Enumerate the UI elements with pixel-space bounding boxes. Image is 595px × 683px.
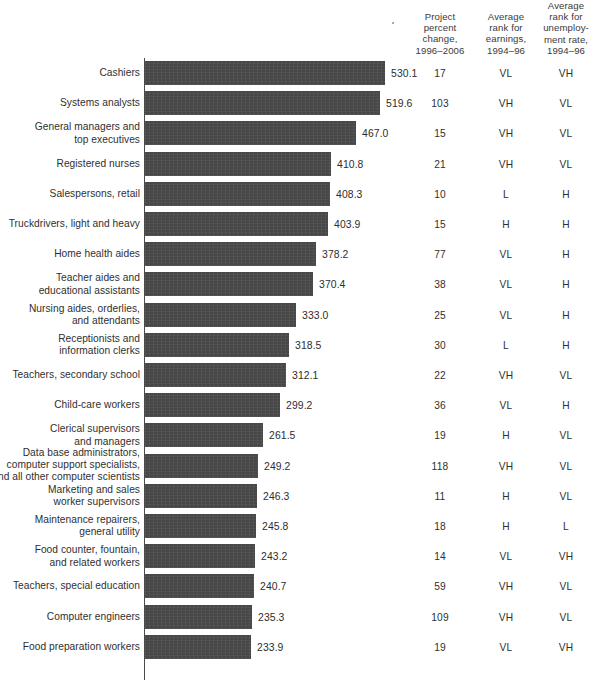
row-category-label: Food preparation workers	[0, 641, 140, 653]
cell-percent-change: 14	[408, 551, 472, 562]
cell-rank-earnings: L	[476, 188, 536, 199]
cell-rank-earnings: VL	[476, 400, 536, 411]
bar	[145, 303, 296, 327]
cell-percent-change: 11	[408, 490, 472, 501]
row-category-label: Nursing aides, orderlies, and attendants	[0, 302, 140, 327]
cell-percent-change: 15	[408, 128, 472, 139]
stray-speck-mark	[392, 22, 394, 24]
bar-value-label: 370.4	[319, 279, 346, 290]
bar-value-label: 261.5	[269, 430, 296, 441]
cell-rank-unemployment: VL	[538, 430, 594, 441]
row-category-label: Child-care workers	[0, 399, 140, 411]
bar-value-label: 240.7	[260, 581, 287, 592]
cell-rank-unemployment: VL	[538, 370, 594, 381]
cell-rank-earnings: VH	[476, 158, 536, 169]
cell-rank-unemployment: VL	[538, 581, 594, 592]
row-category-label: Cashiers	[0, 67, 140, 79]
cell-percent-change: 103	[408, 98, 472, 109]
chart-row: Registered nurses410.821VHVL	[0, 149, 595, 179]
cell-percent-change: 19	[408, 430, 472, 441]
chart-row: Receptionists and information clerks318.…	[0, 330, 595, 360]
bar-value-label: 467.0	[362, 128, 389, 139]
row-category-label: Truckdrivers, light and heavy	[0, 218, 140, 230]
bar	[145, 574, 254, 598]
row-category-label: General managers and top executives	[0, 121, 140, 146]
cell-rank-earnings: VL	[476, 309, 536, 320]
bar	[145, 61, 385, 85]
bar	[145, 242, 316, 266]
row-category-label: Receptionists and information clerks	[0, 332, 140, 357]
row-category-label: Maintenance repairers, general utility	[0, 514, 140, 539]
cell-percent-change: 15	[408, 219, 472, 230]
bar-value-label: 299.2	[286, 400, 313, 411]
cell-percent-change: 21	[408, 158, 472, 169]
cell-rank-earnings: VL	[476, 249, 536, 260]
cell-rank-unemployment: VL	[538, 611, 594, 622]
cell-rank-earnings: VL	[476, 68, 536, 79]
bar-value-label: 333.0	[302, 309, 329, 320]
row-category-label: Teachers, secondary school	[0, 369, 140, 381]
chart-row: Home health aides378.277VLH	[0, 239, 595, 269]
cell-rank-unemployment: H	[538, 219, 594, 230]
chart-row: Food preparation workers233.919VLVH	[0, 632, 595, 662]
chart-row: Computer engineers235.3109VHVL	[0, 602, 595, 632]
cell-rank-unemployment: VH	[538, 551, 594, 562]
bar	[145, 121, 356, 145]
chart-row: Teachers, secondary school312.122VHVL	[0, 360, 595, 390]
cell-rank-earnings: H	[476, 430, 536, 441]
bar	[145, 423, 263, 447]
bar	[145, 454, 258, 478]
cell-percent-change: 38	[408, 279, 472, 290]
bar-value-label: 410.8	[337, 158, 364, 169]
chart-row: Truckdrivers, light and heavy403.915HH	[0, 209, 595, 239]
cell-rank-earnings: VH	[476, 460, 536, 471]
bar	[145, 393, 280, 417]
cell-percent-change: 25	[408, 309, 472, 320]
cell-rank-unemployment: H	[538, 309, 594, 320]
bar	[145, 333, 289, 357]
bar	[145, 212, 328, 236]
bar-value-label: 312.1	[292, 370, 319, 381]
chart-sheet: Project percent change, 1996–2006 Averag…	[0, 0, 595, 683]
bar	[145, 91, 380, 115]
bar-value-label: 378.2	[322, 249, 349, 260]
cell-rank-unemployment: VL	[538, 490, 594, 501]
cell-rank-unemployment: VL	[538, 158, 594, 169]
cell-rank-earnings: VL	[476, 641, 536, 652]
bar-value-label: 243.2	[261, 551, 288, 562]
cell-rank-unemployment: H	[538, 400, 594, 411]
cell-percent-change: 10	[408, 188, 472, 199]
bar	[145, 363, 286, 387]
cell-percent-change: 59	[408, 581, 472, 592]
cell-rank-earnings: VL	[476, 279, 536, 290]
cell-percent-change: 109	[408, 611, 472, 622]
cell-rank-unemployment: L	[538, 521, 594, 532]
chart-row: Teachers, special education240.759VHVL	[0, 571, 595, 601]
cell-percent-change: 17	[408, 68, 472, 79]
bar-chart: Cashiers530.117VLVHSystems analysts519.6…	[0, 56, 595, 683]
cell-rank-unemployment: H	[538, 249, 594, 260]
bar-value-label: 246.3	[263, 490, 290, 501]
bar	[145, 544, 255, 568]
cell-rank-unemployment: VH	[538, 641, 594, 652]
row-category-label: Systems analysts	[0, 97, 140, 109]
bar-value-label: 233.9	[257, 641, 284, 652]
cell-rank-earnings: VH	[476, 128, 536, 139]
cell-rank-earnings: H	[476, 490, 536, 501]
cell-rank-earnings: H	[476, 521, 536, 532]
cell-rank-unemployment: H	[538, 188, 594, 199]
cell-rank-earnings: VH	[476, 98, 536, 109]
bar-value-label: 235.3	[258, 611, 285, 622]
cell-rank-earnings: VH	[476, 370, 536, 381]
chart-row: Maintenance repairers, general utility24…	[0, 511, 595, 541]
bar	[145, 605, 252, 629]
column-header-band: Project percent change, 1996–2006 Averag…	[0, 0, 595, 56]
column-header-rank-earnings: Average rank for earnings, 1994–96	[476, 11, 536, 56]
chart-row: Child-care workers299.236VLH	[0, 390, 595, 420]
chart-row: Clerical supervisors and managers261.519…	[0, 420, 595, 450]
chart-row: Systems analysts519.6103VHVL	[0, 88, 595, 118]
bar	[145, 152, 331, 176]
cell-percent-change: 30	[408, 339, 472, 350]
cell-rank-unemployment: H	[538, 279, 594, 290]
cell-percent-change: 22	[408, 370, 472, 381]
